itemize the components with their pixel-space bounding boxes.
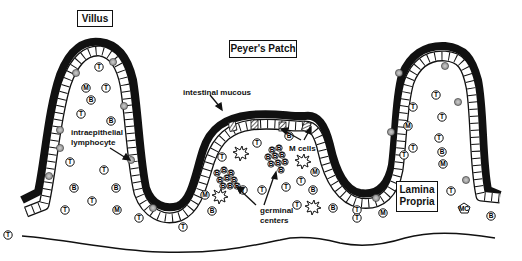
peyers-patch-title: Peyer's Patch bbox=[230, 43, 295, 54]
svg-text:B: B bbox=[283, 158, 288, 165]
svg-text:M: M bbox=[114, 206, 119, 213]
lamina-propria-line2: Propria bbox=[397, 196, 437, 208]
svg-text:T: T bbox=[137, 214, 141, 221]
cell-t-icon: T bbox=[77, 110, 85, 118]
svg-text:T: T bbox=[437, 134, 441, 141]
cell-t-icon: T bbox=[4, 231, 12, 239]
svg-text:T: T bbox=[355, 206, 359, 213]
svg-text:T: T bbox=[68, 158, 72, 165]
cell-t-icon: T bbox=[135, 214, 143, 222]
cell-b-icon: B bbox=[208, 207, 216, 215]
villus-title-box: Villus bbox=[77, 10, 113, 27]
svg-text:B: B bbox=[221, 182, 226, 189]
svg-text:B: B bbox=[109, 117, 114, 124]
svg-text:B: B bbox=[489, 212, 494, 219]
svg-text:T: T bbox=[411, 144, 415, 151]
svg-text:B: B bbox=[114, 184, 119, 191]
intraepithelial-lymphocyte-label: intraepithelial lymphocyte bbox=[71, 128, 123, 147]
svg-text:B: B bbox=[311, 186, 316, 193]
svg-text:M: M bbox=[202, 191, 207, 198]
svg-text:B: B bbox=[89, 96, 94, 103]
intraepithelial-line1: intraepithelial bbox=[71, 128, 123, 138]
intraepithelial-line2: lymphocyte bbox=[71, 138, 123, 148]
svg-text:T: T bbox=[355, 214, 359, 221]
svg-text:T: T bbox=[440, 113, 444, 120]
cell-b-icon: B bbox=[87, 96, 95, 104]
cell-t-icon: T bbox=[282, 183, 290, 191]
cell-t-icon: T bbox=[102, 84, 110, 92]
cell-t-icon: T bbox=[297, 177, 305, 185]
svg-text:T: T bbox=[220, 153, 224, 160]
svg-text:M: M bbox=[83, 84, 88, 91]
svg-text:B: B bbox=[225, 174, 230, 181]
svg-text:T: T bbox=[260, 186, 264, 193]
cell-t-icon: T bbox=[353, 214, 361, 222]
cell-t-icon: T bbox=[258, 186, 266, 194]
svg-text:T: T bbox=[411, 103, 415, 110]
cell-b-icon: B bbox=[329, 204, 337, 212]
cell-b-icon: B bbox=[107, 117, 115, 125]
svg-text:T: T bbox=[79, 110, 83, 117]
cell-t-icon: T bbox=[293, 201, 301, 209]
svg-text:T: T bbox=[402, 151, 406, 158]
svg-text:B: B bbox=[215, 169, 220, 176]
star-cell-icon bbox=[305, 200, 321, 215]
germinal-line2: centers bbox=[260, 216, 293, 226]
cell-t-icon: T bbox=[218, 153, 226, 161]
svg-text:T: T bbox=[434, 91, 438, 98]
svg-text:T: T bbox=[284, 183, 288, 190]
cell-t-icon: T bbox=[432, 91, 440, 99]
svg-text:B: B bbox=[228, 182, 233, 189]
svg-text:B: B bbox=[269, 160, 274, 167]
cell-t-icon: T bbox=[100, 166, 108, 174]
lamina-propria-box: Lamina Propria bbox=[396, 181, 438, 212]
cell-b-icon: B bbox=[309, 186, 317, 194]
svg-text:T: T bbox=[102, 166, 106, 173]
svg-text:MC: MC bbox=[459, 205, 469, 212]
cell-b-icon: B bbox=[438, 148, 446, 156]
peyers-patch-title-box: Peyer's Patch bbox=[229, 40, 297, 58]
star-cell-icon bbox=[295, 154, 311, 169]
svg-text:T: T bbox=[449, 187, 453, 194]
svg-text:T: T bbox=[295, 201, 299, 208]
svg-text:T: T bbox=[255, 139, 259, 146]
star-cell-icon bbox=[233, 146, 249, 161]
cell-m-icon: M bbox=[113, 206, 121, 214]
svg-text:T: T bbox=[90, 197, 94, 204]
lamina-propria-line1: Lamina bbox=[397, 184, 437, 196]
svg-text:B: B bbox=[331, 204, 336, 211]
svg-text:T: T bbox=[6, 231, 10, 238]
svg-text:B: B bbox=[222, 166, 227, 173]
svg-text:B: B bbox=[279, 166, 284, 173]
svg-text:B: B bbox=[277, 144, 282, 151]
svg-text:T: T bbox=[299, 177, 303, 184]
svg-text:T: T bbox=[97, 63, 101, 70]
m-cell bbox=[228, 121, 237, 131]
cell-b-icon: B bbox=[487, 212, 495, 220]
cell-t-icon: T bbox=[400, 151, 408, 159]
intestinal-mucous-label: intestinal mucous bbox=[183, 88, 251, 98]
cell-b-icon: B bbox=[112, 184, 120, 192]
svg-text:M: M bbox=[312, 168, 317, 175]
svg-text:M: M bbox=[405, 122, 410, 129]
svg-text:M: M bbox=[380, 209, 385, 216]
cell-t-icon: T bbox=[253, 139, 261, 147]
svg-text:B: B bbox=[280, 151, 285, 158]
svg-text:B: B bbox=[229, 169, 234, 176]
cell-m-icon: M bbox=[311, 168, 319, 176]
cell-m-icon: M bbox=[379, 209, 387, 217]
submucosa-boundary-line bbox=[22, 233, 495, 252]
star-cell-icon bbox=[212, 189, 228, 204]
cell-t-icon: T bbox=[95, 63, 103, 71]
svg-text:B: B bbox=[72, 184, 77, 191]
cell-t-icon: T bbox=[409, 144, 417, 152]
svg-text:B: B bbox=[210, 207, 215, 214]
germinal-center-right: B B B B B B B B B bbox=[265, 144, 288, 173]
cell-t-icon: T bbox=[438, 113, 446, 121]
cell-t-icon: T bbox=[435, 134, 443, 142]
svg-text:B: B bbox=[266, 153, 271, 160]
villus-title: Villus bbox=[82, 13, 109, 24]
svg-text:T: T bbox=[104, 84, 108, 91]
svg-text:T: T bbox=[181, 223, 185, 230]
cell-m-icon: M bbox=[201, 191, 209, 199]
